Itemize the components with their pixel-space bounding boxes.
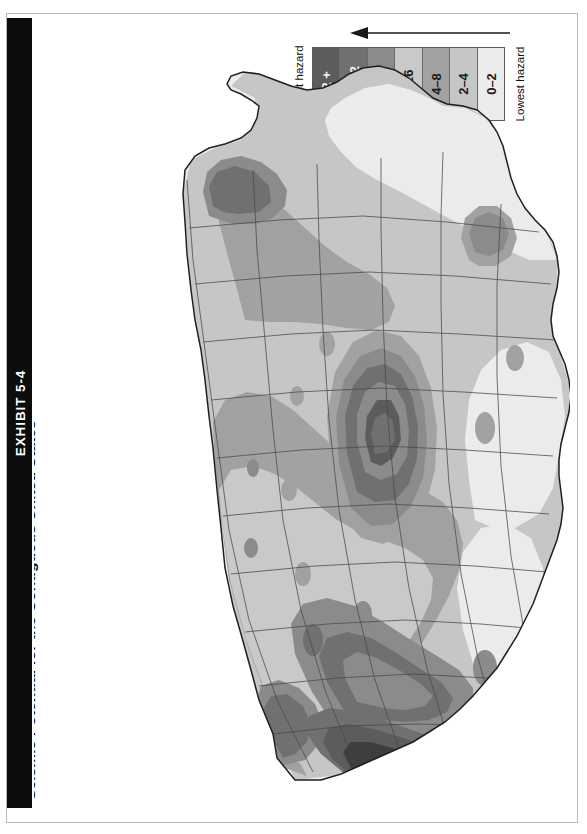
exhibit-banner: EXHIBIT 5-4 — [7, 18, 32, 808]
exhibit-number-label: EXHIBIT 5-4 — [12, 370, 27, 456]
map-svg — [40, 30, 570, 820]
seismic-hazard-map — [40, 30, 570, 820]
page-title: Seismic Potential for the Contiguous Uni… — [34, 420, 39, 800]
exhibit-page: EXHIBIT 5-4 Seismic Potential for the Co… — [0, 0, 587, 834]
map-rotation-group — [145, 30, 570, 820]
